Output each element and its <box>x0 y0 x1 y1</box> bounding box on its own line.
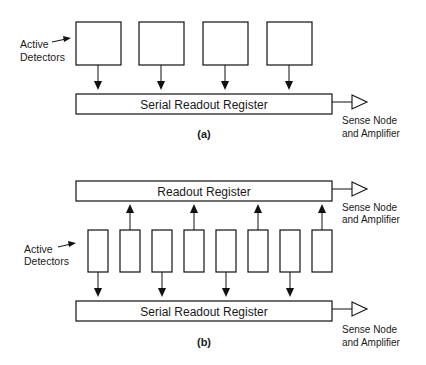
panel-b-caption: (b) <box>197 336 211 348</box>
pointer-arrow-icon <box>58 241 76 247</box>
detector-column <box>216 230 236 272</box>
detector-box <box>203 22 248 65</box>
detector-column <box>152 230 172 272</box>
panel-a: Active Detectors Serial Readout Register… <box>20 22 400 140</box>
sense-node-label-bottom-line1: Sense Node <box>342 324 397 335</box>
panel-b: Readout Register Sense Node and Amplifie… <box>24 181 400 348</box>
serial-readout-register-label: Serial Readout Register <box>140 305 267 319</box>
detector-box <box>139 22 184 65</box>
active-detectors-label-line1: Active <box>20 38 49 50</box>
sense-node-label-line1: Sense Node <box>342 115 397 126</box>
detector-column <box>120 230 140 272</box>
amplifier-triangle-icon <box>332 95 367 109</box>
detector-column <box>312 230 332 272</box>
active-detectors-label-line2: Detectors <box>20 51 65 63</box>
up-arrow-icon <box>126 204 326 230</box>
detector-box <box>76 22 121 65</box>
detector-column <box>248 230 268 272</box>
detector-column <box>88 230 108 272</box>
down-arrow-icon <box>94 272 294 297</box>
sense-node-label-line2: and Amplifier <box>342 128 400 139</box>
sense-node-label-bottom-line2: and Amplifier <box>342 337 400 348</box>
detector-columns <box>88 230 332 272</box>
down-arrow-icon <box>94 65 293 90</box>
serial-readout-register-label: Serial Readout Register <box>140 98 267 112</box>
amplifier-triangle-icon <box>332 302 367 316</box>
ccd-readout-diagram: Active Detectors Serial Readout Register… <box>0 0 426 365</box>
detector-column <box>184 230 204 272</box>
panel-a-caption: (a) <box>197 128 211 140</box>
pointer-arrow-icon <box>52 36 71 42</box>
sense-node-label-top-line2: and Amplifier <box>342 214 400 225</box>
amplifier-triangle-icon <box>332 182 367 196</box>
detector-box <box>267 22 312 65</box>
active-detectors-label-line2: Detectors <box>24 255 69 267</box>
active-detectors-label-line1: Active <box>24 243 53 255</box>
detector-column <box>280 230 300 272</box>
sense-node-label-top-line1: Sense Node <box>342 202 397 213</box>
readout-register-label: Readout Register <box>157 185 250 199</box>
